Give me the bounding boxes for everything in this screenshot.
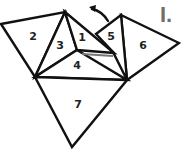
triangle-label-2: 2 bbox=[29, 30, 37, 43]
triangle-label-3: 3 bbox=[56, 39, 64, 52]
arrowhead-icon bbox=[89, 5, 96, 12]
folding-diagram: 1 2 3 4 5 6 7 bbox=[0, 0, 181, 154]
triangle-label-1: 1 bbox=[78, 31, 86, 44]
triangle-label-4: 4 bbox=[73, 59, 81, 72]
triangle-label-7: 7 bbox=[74, 98, 82, 111]
triangle-label-6: 6 bbox=[139, 39, 147, 52]
figure-label: I. bbox=[160, 4, 172, 26]
triangle-label-5: 5 bbox=[107, 30, 115, 43]
triangle-7 bbox=[35, 77, 127, 147]
